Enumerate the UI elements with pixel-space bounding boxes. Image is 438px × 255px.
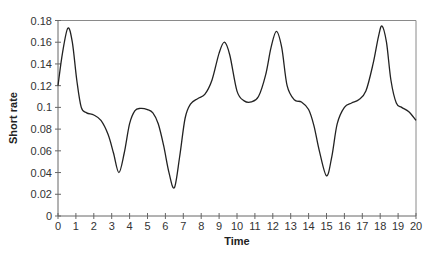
x-tick-label: 15 xyxy=(320,220,332,232)
x-tick-label: 3 xyxy=(109,220,115,232)
y-tick-label: 0.12 xyxy=(31,80,52,92)
y-tick-label: 0.1 xyxy=(37,101,52,113)
plot-frame xyxy=(58,21,416,217)
x-tick-label: 8 xyxy=(198,220,204,232)
x-tick-label: 2 xyxy=(91,220,97,232)
short-rate-series-line xyxy=(58,26,416,188)
y-axis-title: Short rate xyxy=(7,92,19,144)
y-tick-label: 0.04 xyxy=(31,167,52,179)
x-tick-label: 20 xyxy=(410,220,422,232)
x-tick-label: 11 xyxy=(249,220,260,232)
x-axis: 01234567891011121314151617181920 xyxy=(55,213,422,232)
x-tick-label: 7 xyxy=(180,220,186,232)
x-tick-label: 1 xyxy=(73,220,79,232)
x-tick-label: 4 xyxy=(127,220,133,232)
x-tick-label: 17 xyxy=(356,220,368,232)
x-tick-label: 18 xyxy=(374,220,386,232)
y-tick-label: 0.16 xyxy=(31,36,52,48)
x-tick-label: 19 xyxy=(392,220,404,232)
short-rate-line-chart: 00.020.040.060.080.10.120.140.160.18 012… xyxy=(0,0,438,255)
y-tick-label: 0 xyxy=(46,210,52,222)
y-axis: 00.020.040.060.080.10.120.140.160.18 xyxy=(31,15,61,223)
x-tick-label: 5 xyxy=(144,220,150,232)
y-tick-label: 0.14 xyxy=(31,58,52,70)
x-axis-title: Time xyxy=(224,235,249,247)
y-tick-label: 0.08 xyxy=(31,123,52,135)
x-tick-label: 10 xyxy=(231,220,243,232)
y-tick-label: 0.06 xyxy=(31,145,52,157)
x-tick-label: 6 xyxy=(162,220,168,232)
x-tick-label: 13 xyxy=(285,220,297,232)
x-tick-label: 16 xyxy=(338,220,350,232)
x-tick-label: 14 xyxy=(302,220,314,232)
x-tick-label: 9 xyxy=(216,220,222,232)
y-tick-label: 0.02 xyxy=(31,188,52,200)
x-tick-label: 0 xyxy=(55,220,61,232)
y-tick-label: 0.18 xyxy=(31,15,52,27)
x-tick-label: 12 xyxy=(267,220,279,232)
